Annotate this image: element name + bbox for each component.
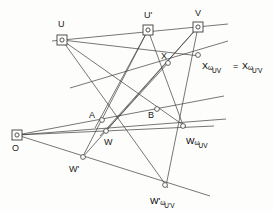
label-X: X bbox=[161, 52, 167, 61]
label-equals-base: = bbox=[233, 61, 238, 71]
label-O: O bbox=[12, 144, 19, 153]
label-U: U bbox=[58, 20, 65, 29]
lines-group bbox=[17, 24, 228, 196]
circle-marker-icon bbox=[100, 118, 105, 123]
label-W-omega-UV-subscript: UV bbox=[199, 142, 208, 149]
point-marker-O bbox=[12, 130, 22, 140]
point-marker-A bbox=[100, 118, 105, 123]
point-marker-U bbox=[57, 35, 67, 45]
point-marker-Uprime bbox=[143, 25, 153, 35]
line-V-to-Wprime-omega bbox=[166, 27, 198, 186]
point-marker-W bbox=[104, 129, 109, 134]
point-marker-V bbox=[193, 22, 203, 32]
label-X-omega-U-prime-V-subscript: U'V bbox=[252, 67, 262, 74]
point-marker-Xw bbox=[196, 53, 201, 58]
label-X-omega-U-prime-V: XωU'V bbox=[242, 55, 263, 73]
label-W-prime-omega-U-prime-V-base: W' bbox=[150, 196, 160, 206]
line-O-through-Wprime bbox=[17, 135, 210, 196]
figure-container: OUU'VABWW'X XωUV=XωU'VWωUVW'ωU'V bbox=[0, 0, 274, 211]
label-W-prime-omega-U-prime-V-subscript: U'V bbox=[164, 202, 174, 209]
dot-marker-icon bbox=[15, 133, 19, 137]
circle-marker-icon bbox=[166, 61, 171, 66]
line-X-to-W bbox=[104, 63, 168, 133]
point-marker-B bbox=[155, 107, 160, 112]
dot-marker-icon bbox=[60, 38, 64, 42]
circle-marker-icon bbox=[196, 53, 201, 58]
circle-marker-icon bbox=[81, 155, 86, 160]
label-V: V bbox=[195, 9, 201, 18]
circle-marker-icon bbox=[104, 129, 109, 134]
label-W-omega-UV: WωUV bbox=[186, 130, 209, 148]
circle-marker-icon bbox=[181, 124, 186, 129]
label-equals: = bbox=[233, 55, 238, 73]
label-B: B bbox=[148, 111, 154, 120]
label-U-prime: U' bbox=[144, 11, 152, 20]
point-marker-X bbox=[166, 61, 171, 66]
dot-marker-icon bbox=[146, 28, 150, 32]
label-W-prime-omega-U-prime-V: W'ωU'V bbox=[150, 190, 176, 208]
diagram-canvas bbox=[0, 0, 274, 211]
point-marker-Wpw bbox=[163, 183, 168, 188]
circle-marker-icon bbox=[163, 183, 168, 188]
label-A: A bbox=[89, 111, 95, 120]
label-W-prime: W' bbox=[69, 165, 79, 174]
label-W: W bbox=[104, 138, 113, 147]
point-marker-Ww bbox=[181, 124, 186, 129]
point-marker-Wprime bbox=[81, 155, 86, 160]
dot-marker-icon bbox=[196, 25, 200, 29]
label-X-omega-UV-subscript: UV bbox=[212, 67, 221, 74]
circle-marker-icon bbox=[155, 107, 160, 112]
label-W-omega-UV-base: W bbox=[186, 136, 195, 146]
label-X-omega-UV: XωUV bbox=[202, 55, 222, 73]
